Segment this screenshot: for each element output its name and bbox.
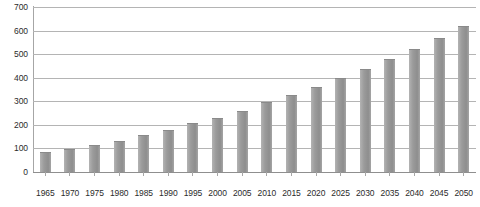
x-tick-label: 1985: [134, 188, 153, 198]
x-tick-label: 2005: [233, 188, 252, 198]
x-label-slot: 2035: [378, 182, 403, 198]
x-label-slot: 2000: [205, 182, 230, 198]
x-label-slot: 1985: [131, 182, 156, 198]
bar-slot: [131, 7, 156, 172]
y-tick-label: 700: [14, 2, 28, 12]
x-label-slot: 2050: [451, 182, 476, 198]
y-tick-label: 400: [14, 73, 28, 83]
x-tick-mark: [119, 172, 120, 176]
bar: [212, 118, 223, 172]
x-tick-mark: [389, 172, 390, 176]
bar-slot: [378, 7, 403, 172]
x-tick-label: 2010: [258, 188, 277, 198]
x-axis: 1965197019751980198519901995200020052010…: [33, 182, 476, 198]
x-label-slot: 1970: [58, 182, 83, 198]
y-tick-label: 0: [23, 167, 28, 177]
x-tick-mark: [340, 172, 341, 176]
x-label-slot: 1995: [181, 182, 206, 198]
bar: [434, 38, 445, 172]
bar-slot: [230, 7, 255, 172]
y-tick-label: 500: [14, 49, 28, 59]
x-label-slot: 2040: [402, 182, 427, 198]
bar-slot: [205, 7, 230, 172]
bar-slot: [254, 7, 279, 172]
x-tick-mark: [414, 172, 415, 176]
bar-slot: [156, 7, 181, 172]
x-tick-slot: [156, 172, 181, 177]
x-tick-mark: [192, 172, 193, 176]
bar: [89, 145, 100, 172]
bar-chart: 0100200300400500600700 19651970197519801…: [0, 0, 480, 207]
x-label-slot: 1965: [33, 182, 58, 198]
x-label-slot: 2015: [279, 182, 304, 198]
bar: [138, 135, 149, 172]
y-axis: 0100200300400500600700: [0, 0, 33, 207]
bar-slot: [279, 7, 304, 172]
bar-slot: [107, 7, 132, 172]
bar-slot: [82, 7, 107, 172]
y-tick-label: 100: [14, 143, 28, 153]
x-tick-label: 2030: [356, 188, 375, 198]
x-tick-mark: [242, 172, 243, 176]
bar: [163, 130, 174, 172]
x-label-slot: 2020: [304, 182, 329, 198]
x-label-slot: 2010: [254, 182, 279, 198]
x-tick-mark: [217, 172, 218, 176]
x-tick-label: 2045: [430, 188, 449, 198]
x-tick-slot: [304, 172, 329, 177]
x-tick-slot: [33, 172, 58, 177]
bar: [286, 95, 297, 172]
y-tick-label: 200: [14, 120, 28, 130]
x-tick-label: 1965: [36, 188, 55, 198]
bar-slot: [328, 7, 353, 172]
y-tick-label: 600: [14, 26, 28, 36]
x-tick-label: 1975: [85, 188, 104, 198]
x-label-slot: 2025: [328, 182, 353, 198]
x-tick-label: 2020: [307, 188, 326, 198]
x-tick-slot: [328, 172, 353, 177]
x-tick-slot: [402, 172, 427, 177]
x-tick-mark: [316, 172, 317, 176]
x-tick-mark: [143, 172, 144, 176]
y-tick-label: 300: [14, 96, 28, 106]
x-tick-mark: [266, 172, 267, 176]
x-tick-slot: [131, 172, 156, 177]
x-tick-slot: [230, 172, 255, 177]
bars-layer: [33, 7, 476, 172]
bar: [40, 152, 51, 172]
x-tick-label: 1970: [61, 188, 80, 198]
x-tick-slot: [279, 172, 304, 177]
bar-slot: [58, 7, 83, 172]
bar-slot: [353, 7, 378, 172]
bar: [458, 26, 469, 172]
x-tick-mark: [94, 172, 95, 176]
x-tick-mark: [45, 172, 46, 176]
x-label-slot: 1975: [82, 182, 107, 198]
x-tick-mark: [365, 172, 366, 176]
x-tick-label: 2015: [282, 188, 301, 198]
x-tick-mark: [69, 172, 70, 176]
bar: [360, 69, 371, 172]
x-tick-slot: [58, 172, 83, 177]
x-tick-mark: [439, 172, 440, 176]
bar-slot: [304, 7, 329, 172]
bar-slot: [451, 7, 476, 172]
x-tick-slot: [82, 172, 107, 177]
bar: [261, 102, 272, 172]
bar: [384, 59, 395, 172]
x-tick-label: 1980: [110, 188, 129, 198]
bar-slot: [181, 7, 206, 172]
x-tick-slot: [205, 172, 230, 177]
x-tick-slot: [427, 172, 452, 177]
x-tick-label: 2035: [381, 188, 400, 198]
x-tick-mark: [291, 172, 292, 176]
x-tick-label: 1990: [159, 188, 178, 198]
x-tick-slot: [451, 172, 476, 177]
x-label-slot: 1980: [107, 182, 132, 198]
x-tick-mark: [168, 172, 169, 176]
bar: [409, 49, 420, 172]
x-tick-mark: [463, 172, 464, 176]
x-tick-label: 2050: [454, 188, 473, 198]
x-axis-ticks: [33, 172, 476, 177]
x-tick-slot: [378, 172, 403, 177]
